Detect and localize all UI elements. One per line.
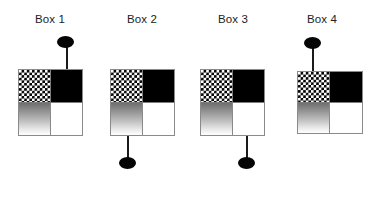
box-3-bottom-left-gradient-quadrant	[201, 103, 233, 136]
box-3-bottom-right-white-quadrant	[233, 103, 265, 136]
box-2-stem	[127, 136, 129, 159]
box-1-stem	[66, 46, 68, 70]
box-3-stem	[246, 136, 248, 159]
box-3-top-left-checkerboard-quadrant	[201, 70, 233, 103]
box-4-top-left-checkerboard-quadrant	[298, 72, 330, 103]
box-3-label: Box 3	[211, 13, 255, 25]
box-4-bottom-left-gradient-quadrant	[298, 103, 330, 134]
box-2-top-left-checkerboard-quadrant	[111, 70, 143, 103]
box-3-frame	[200, 69, 265, 136]
figure-canvas: Box 1Box 2Box 3Box 4	[0, 0, 381, 203]
box-3-top-right-black-quadrant	[233, 70, 265, 103]
box-4-frame	[297, 71, 363, 134]
box-1-top-right-black-quadrant	[51, 70, 83, 103]
box-2-label: Box 2	[120, 13, 164, 25]
box-2-bottom-left-gradient-quadrant	[111, 103, 143, 136]
box-2-bottom-right-white-quadrant	[143, 103, 175, 136]
box-4-bottom-right-white-quadrant	[330, 103, 362, 134]
box-2-frame	[110, 69, 175, 136]
box-4-top-right-black-quadrant	[330, 72, 362, 103]
box-1-bottom-right-white-quadrant	[51, 103, 83, 136]
box-1-label: Box 1	[28, 13, 72, 25]
box-2-knob-ellipse	[119, 157, 136, 169]
box-4-label: Box 4	[300, 13, 344, 25]
box-4-knob-ellipse	[304, 37, 321, 49]
box-3-knob-ellipse	[238, 157, 255, 169]
box-4-stem	[312, 48, 314, 72]
box-1-bottom-left-gradient-quadrant	[19, 103, 51, 136]
box-2-top-right-black-quadrant	[143, 70, 175, 103]
box-1-top-left-checkerboard-quadrant	[19, 70, 51, 103]
box-1-frame	[18, 69, 83, 136]
box-1-knob-ellipse	[57, 36, 74, 48]
